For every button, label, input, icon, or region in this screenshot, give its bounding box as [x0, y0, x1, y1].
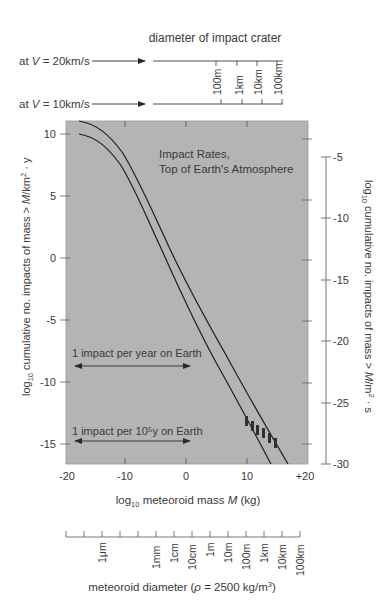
svg-text:0: 0 [50, 252, 56, 264]
svg-text:100m: 100m [240, 543, 252, 570]
svg-text:10cm: 10cm [186, 544, 198, 570]
svg-text:-20: -20 [59, 470, 75, 482]
impact-rate-chart: diameter of impact crater at V = 20km/s … [0, 0, 386, 615]
plot-title-line-1: Impact Rates, [159, 148, 230, 160]
svg-text:-10: -10 [333, 212, 349, 224]
x-axis: -20 -10 0 10 +20 log10 meteoroid mass M … [59, 470, 314, 509]
svg-text:10km: 10km [252, 69, 264, 95]
svg-text:0: 0 [183, 470, 189, 482]
crater-row-10kms: at V = 10km/s [19, 98, 283, 110]
svg-text:-10: -10 [117, 470, 133, 482]
plot-title-line-2: Top of Earth's Atmosphere [159, 163, 294, 175]
svg-text:10: 10 [241, 470, 253, 482]
svg-text:100m: 100m [211, 68, 223, 95]
meteoroid-diameter-scale: 1μm 1mm 1cm 10cm 1m 10m 100m 1km 10km 10… [66, 531, 306, 593]
diameter-scale-title: meteoroid diameter (ρ = 2500 kg/m3) [88, 580, 276, 593]
svg-text:10: 10 [44, 128, 56, 140]
svg-text:-30: -30 [333, 458, 349, 470]
svg-text:1km: 1km [233, 75, 245, 95]
crater-row-label-10: at V = 10km/s [19, 98, 90, 110]
svg-text:100km: 100km [294, 544, 306, 576]
svg-text:-5: -5 [333, 151, 343, 163]
crater-scale-title: diameter of impact crater [149, 31, 282, 45]
x-axis-title: log10 meteoroid mass M (kg) [116, 494, 261, 509]
svg-text:-15: -15 [40, 438, 56, 450]
svg-text:1km: 1km [258, 543, 270, 563]
plot-area: Impact Rates, Top of Earth's Atmosphere … [60, 121, 312, 464]
svg-text:1μm: 1μm [96, 542, 108, 563]
svg-text:-15: -15 [333, 274, 349, 286]
svg-text:-25: -25 [333, 397, 349, 409]
y-axis-title: log10 cumulative no. impacts of mass > M… [19, 157, 35, 396]
svg-text:-10: -10 [40, 376, 56, 388]
svg-text:1 impact per 10⁵y on Earth: 1 impact per 10⁵y on Earth [72, 425, 203, 437]
crater-row-20kms: at V = 20km/s [19, 55, 283, 67]
svg-text:10m: 10m [222, 542, 234, 563]
svg-text:1cm: 1cm [168, 543, 180, 563]
crater-diameter-scales: diameter of impact crater at V = 20km/s … [19, 31, 284, 110]
y-axis-right: -5 -10 -15 -20 -25 -30 log10 cumulative … [321, 151, 376, 470]
svg-text:100km: 100km [272, 63, 284, 95]
svg-text:10km: 10km [276, 544, 288, 570]
crater-tick-labels: 100m 1km 10km 100km [211, 63, 284, 95]
svg-text:5: 5 [50, 190, 56, 202]
svg-text:1mm: 1mm [150, 545, 162, 569]
svg-text:-5: -5 [46, 314, 56, 326]
svg-text:+20: +20 [296, 470, 315, 482]
y-axis-left: 10 5 0 -5 -10 -15 log10 cumulative no. i… [19, 128, 56, 450]
svg-text:1m: 1m [204, 542, 216, 557]
y2-axis-title: log10 cumulative no. impacts of mass > M… [360, 180, 376, 413]
crater-row-label-20: at V = 20km/s [19, 55, 90, 67]
svg-text:1 impact per year on Earth: 1 impact per year on Earth [72, 347, 202, 359]
svg-text:-20: -20 [333, 335, 349, 347]
